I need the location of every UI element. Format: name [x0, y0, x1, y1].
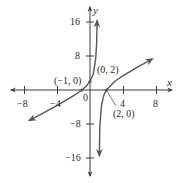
y-tick-label-8: 8 [75, 50, 80, 61]
curve-left-branch [29, 21, 97, 121]
annotation-0-2: (0, 2) [97, 64, 119, 76]
x-tick-label-m8: −8 [17, 98, 28, 109]
y-tick-label-m16: −16 [65, 152, 81, 163]
leader-2-0 [107, 91, 116, 106]
y-axis-label: y [92, 4, 98, 16]
function-graph: x y −8 −4 4 8 0 16 8 −8 −16 (−1, 0) (0, … [0, 0, 185, 183]
point-0-2 [88, 80, 91, 83]
annotation-2-0: (2, 0) [113, 108, 135, 120]
y-tick-label-16: 16 [70, 16, 80, 27]
x-axis-label: x [166, 76, 172, 88]
x-tick-label-m4: −4 [50, 98, 61, 109]
x-tick-label-8: 8 [153, 98, 158, 109]
origin-label: 0 [83, 92, 88, 103]
annotation-neg1-0: (−1, 0) [54, 75, 81, 87]
y-tick-label-m8: −8 [70, 118, 81, 129]
